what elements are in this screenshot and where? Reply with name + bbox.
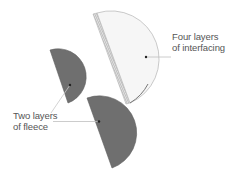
interfacing-piece: [93, 11, 159, 104]
label-interfacing-line1: Four layers: [172, 31, 225, 42]
leader-dot-interfacing: [145, 56, 147, 58]
leader-dot-fleece-large: [98, 120, 100, 122]
leader-dot-fleece-small: [69, 84, 71, 86]
label-interfacing-line2: of interfacing: [172, 42, 225, 53]
label-fleece: Two layers of fleece: [13, 110, 57, 132]
diagram-canvas: [0, 0, 232, 181]
label-fleece-line2: of fleece: [13, 121, 57, 132]
label-fleece-line1: Two layers: [13, 110, 57, 121]
fleece-piece-small: [50, 49, 86, 103]
fleece-piece-large: [87, 96, 137, 168]
label-interfacing: Four layers of interfacing: [172, 31, 225, 53]
